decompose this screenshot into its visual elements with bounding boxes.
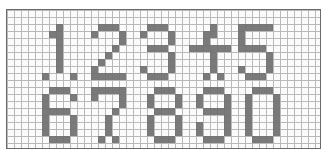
- filled-cell: [217, 136, 224, 143]
- filled-cell: [259, 136, 266, 143]
- filled-cell: [147, 129, 154, 136]
- filled-cell: [252, 24, 259, 31]
- filled-cell: [98, 59, 105, 66]
- filled-cell: [154, 87, 161, 94]
- filled-cell: [203, 73, 210, 80]
- filled-cell: [245, 73, 252, 80]
- filled-cell: [210, 52, 217, 59]
- filled-cell: [196, 45, 203, 52]
- filled-cell: [154, 24, 161, 31]
- filled-cell: [119, 31, 126, 38]
- filled-cell: [252, 73, 259, 80]
- filled-cell: [154, 108, 161, 115]
- filled-cell: [168, 38, 175, 45]
- filled-cell: [238, 45, 245, 52]
- filled-cell: [63, 136, 70, 143]
- filled-cell: [105, 115, 112, 122]
- filled-cell: [105, 122, 112, 129]
- filled-cell: [56, 52, 63, 59]
- filled-cell: [266, 66, 273, 73]
- filled-cell: [168, 87, 175, 94]
- filled-cell: [98, 73, 105, 80]
- filled-cell: [119, 38, 126, 45]
- filled-cell: [112, 108, 119, 115]
- filled-cell: [168, 52, 175, 59]
- filled-cell: [259, 45, 266, 52]
- filled-cell: [203, 45, 210, 52]
- filled-cell: [217, 73, 224, 80]
- filled-cell: [224, 115, 231, 122]
- filled-cell: [203, 136, 210, 143]
- filled-cell: [210, 87, 217, 94]
- filled-cell: [203, 31, 210, 38]
- filled-cell: [259, 73, 266, 80]
- filled-cell: [70, 129, 77, 136]
- filled-cell: [168, 59, 175, 66]
- filled-cell: [266, 87, 273, 94]
- filled-cell: [91, 87, 98, 94]
- filled-cell: [273, 122, 280, 129]
- filled-cell: [245, 101, 252, 108]
- filled-cell: [161, 87, 168, 94]
- filled-cell: [70, 115, 77, 122]
- filled-cell: [56, 38, 63, 45]
- filled-cell: [49, 108, 56, 115]
- filled-cell: [175, 122, 182, 129]
- filled-cell: [196, 101, 203, 108]
- filled-cell: [266, 24, 273, 31]
- filled-cell: [98, 87, 105, 94]
- filled-cell: [217, 108, 224, 115]
- filled-cell: [56, 24, 63, 31]
- filled-cell: [210, 24, 217, 31]
- filled-cell: [42, 94, 49, 101]
- filled-cell: [154, 45, 161, 52]
- filled-cell: [203, 108, 210, 115]
- filled-cell: [161, 136, 168, 143]
- filled-cell: [245, 94, 252, 101]
- filled-cell: [56, 31, 63, 38]
- filled-cell: [70, 94, 77, 101]
- filled-cell: [91, 66, 98, 73]
- graph-paper-grid: 1234567890: [6, 9, 321, 149]
- filled-cell: [56, 87, 63, 94]
- filled-cell: [147, 115, 154, 122]
- filled-cell: [245, 108, 252, 115]
- filled-cell: [161, 108, 168, 115]
- filled-cell: [140, 66, 147, 73]
- filled-cell: [112, 45, 119, 52]
- filled-cell: [56, 136, 63, 143]
- filled-cell: [252, 45, 259, 52]
- filled-cell: [147, 94, 154, 101]
- filled-cell: [224, 101, 231, 108]
- filled-cell: [238, 24, 245, 31]
- filled-cell: [217, 87, 224, 94]
- filled-cell: [105, 52, 112, 59]
- filled-cell: [154, 73, 161, 80]
- filled-cell: [224, 94, 231, 101]
- filled-cell: [273, 115, 280, 122]
- filled-cell: [210, 108, 217, 115]
- filled-cell: [119, 94, 126, 101]
- filled-cell: [112, 136, 119, 143]
- filled-cell: [49, 87, 56, 94]
- filled-cell: [42, 129, 49, 136]
- filled-cell: [245, 24, 252, 31]
- filled-cell: [161, 24, 168, 31]
- filled-cell: [56, 108, 63, 115]
- filled-cell: [168, 66, 175, 73]
- filled-cell: [119, 101, 126, 108]
- filled-cell: [238, 31, 245, 38]
- filled-cell: [273, 129, 280, 136]
- filled-cell: [98, 24, 105, 31]
- filled-cell: [210, 136, 217, 143]
- filled-cell: [105, 24, 112, 31]
- filled-cell: [245, 115, 252, 122]
- filled-cell: [63, 87, 70, 94]
- filled-cell: [147, 45, 154, 52]
- filled-cell: [252, 87, 259, 94]
- filled-cell: [42, 101, 49, 108]
- filled-cell: [238, 38, 245, 45]
- filled-cell: [273, 101, 280, 108]
- filled-cell: [49, 136, 56, 143]
- filled-cell: [217, 45, 224, 52]
